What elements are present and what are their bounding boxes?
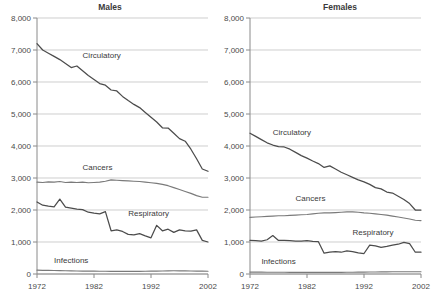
series-label-cancers: Cancers <box>83 163 113 172</box>
y-axis-tick-label: 6,000 <box>11 78 32 87</box>
x-axis-tick-label: 1972 <box>28 282 46 291</box>
series-line-circulatory <box>37 44 208 172</box>
y-axis-tick-label: 2,000 <box>11 206 32 215</box>
y-axis-tick-label: 5,000 <box>11 110 32 119</box>
chart-canvas: Males01,0002,0003,0004,0005,0006,0007,00… <box>0 0 440 300</box>
y-axis-tick-label: 2,000 <box>224 206 245 215</box>
series-line-respiratory <box>37 199 208 242</box>
panel-males: Males01,0002,0003,0004,0005,0006,0007,00… <box>11 2 217 291</box>
panel-title-females: Females <box>323 2 357 12</box>
y-axis-tick-label: 8,000 <box>224 14 245 23</box>
y-axis-tick-label: 0 <box>27 270 32 279</box>
y-axis-tick-label: 3,000 <box>224 174 245 183</box>
series-line-circulatory <box>250 133 421 210</box>
series-label-respiratory: Respiratory <box>353 228 394 237</box>
series-label-infections: Infections <box>54 256 88 265</box>
x-axis-tick-label: 1982 <box>85 282 103 291</box>
x-axis-tick-label: 1992 <box>355 282 373 291</box>
series-line-infections <box>250 272 421 273</box>
x-axis-tick-label: 1972 <box>241 282 259 291</box>
y-axis-tick-label: 4,000 <box>11 142 32 151</box>
panel-females: Females01,0002,0003,0004,0005,0006,0007,… <box>224 2 430 291</box>
series-label-respiratory: Respiratory <box>128 209 169 218</box>
y-axis-tick-label: 8,000 <box>11 14 32 23</box>
series-label-cancers: Cancers <box>296 194 326 203</box>
dual-line-chart-figure: Males01,0002,0003,0004,0005,0006,0007,00… <box>0 0 440 300</box>
series-line-respiratory <box>250 236 421 254</box>
panel-title-males: Males <box>98 2 122 12</box>
y-axis-tick-label: 7,000 <box>224 46 245 55</box>
x-axis-tick-label: 1982 <box>298 282 316 291</box>
series-line-cancers <box>250 212 421 221</box>
y-axis-tick-label: 7,000 <box>11 46 32 55</box>
series-label-infections: Infections <box>261 257 295 266</box>
series-line-cancers <box>37 180 208 197</box>
y-axis-tick-label: 6,000 <box>224 78 245 87</box>
y-axis-tick-label: 1,000 <box>224 238 245 247</box>
series-label-circulatory: Circulatory <box>83 51 121 60</box>
x-axis-tick-label: 2002 <box>412 282 430 291</box>
x-axis-tick-label: 1992 <box>142 282 160 291</box>
series-line-infections <box>37 270 208 271</box>
y-axis-tick-label: 0 <box>240 270 245 279</box>
y-axis-tick-label: 4,000 <box>224 142 245 151</box>
y-axis-tick-label: 1,000 <box>11 238 32 247</box>
y-axis-tick-label: 3,000 <box>11 174 32 183</box>
x-axis-tick-label: 2002 <box>199 282 217 291</box>
series-label-circulatory: Circulatory <box>273 128 311 137</box>
y-axis-tick-label: 5,000 <box>224 110 245 119</box>
